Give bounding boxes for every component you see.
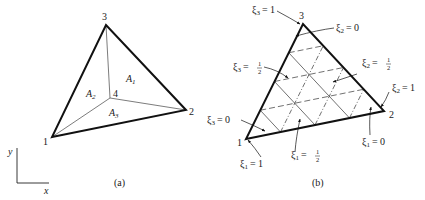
vertex-label-b-2: 2: [389, 109, 394, 120]
caption-a: (a): [114, 177, 125, 189]
label-xi3-eq-half: ξ3= 1 2: [233, 60, 262, 75]
svg-text:1: 1: [316, 148, 319, 155]
svg-text:1: 1: [258, 60, 261, 67]
svg-text:ξ2=: ξ2=: [362, 57, 378, 70]
line-4-2: [110, 98, 186, 110]
label-xi1-eq-0: ξ1= 0: [362, 136, 385, 149]
svg-text:2: 2: [387, 64, 390, 71]
area-label-a1: A1: [125, 73, 136, 86]
svg-text:2: 2: [258, 68, 261, 75]
label-xi2-eq-1: ξ2= 1: [392, 82, 415, 95]
label-xi1-eq-half: ξ1= 1 2: [291, 148, 320, 163]
svg-text:2: 2: [316, 156, 319, 163]
vertex-label-b-3: 3: [299, 10, 304, 21]
vertex-label-a-3: 3: [102, 11, 107, 22]
svg-text:1: 1: [387, 56, 390, 63]
svg-text:ξ1=: ξ1=: [291, 149, 307, 162]
label-xi2-eq-half: ξ2= 1 2: [362, 56, 391, 71]
vertex-label-a-2: 2: [189, 106, 194, 117]
area-label-a3: A3: [108, 107, 119, 120]
x-axis-label: x: [43, 185, 49, 196]
line-4-3: [106, 25, 110, 98]
label-xi3-eq-1: ξ3= 1: [252, 4, 275, 17]
label-xi3-eq-0: ξ3= 0: [207, 114, 230, 127]
triangle-b-outline: [246, 24, 384, 139]
vertex-label-a-1: 1: [43, 136, 48, 147]
figure-b: 3 1 2 ξ3= 1 ξ2= 0 ξ3= 1 2 ξ2= 1: [207, 4, 415, 189]
area-label-a2: A2: [85, 88, 96, 101]
label-xi1-eq-1: ξ1= 1: [240, 158, 263, 171]
vertex-label-a-4: 4: [113, 88, 118, 99]
svg-text:ξ3=: ξ3=: [233, 61, 249, 74]
caption-b: (b): [312, 177, 324, 189]
vertex-label-b-1: 1: [237, 137, 242, 148]
figure-a: 3 1 2 4 A1 A2 A3 y x (a): [7, 11, 194, 196]
figure-canvas: 3 1 2 4 A1 A2 A3 y x (a): [0, 0, 425, 200]
y-axis-label: y: [7, 146, 13, 157]
label-xi2-eq-0: ξ2= 0: [336, 22, 359, 35]
triangle-a-outline: [52, 25, 186, 137]
